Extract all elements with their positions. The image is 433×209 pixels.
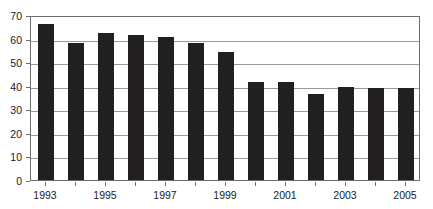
bar (98, 33, 114, 180)
x-tick-mark (105, 182, 106, 186)
x-axis: 1993199519971999200120032005 (30, 182, 420, 209)
y-tick-label: 60 (10, 34, 22, 45)
y-tick-label: 0 (16, 176, 22, 187)
y-tick-label: 10 (10, 152, 22, 163)
y-tick-label: 40 (10, 81, 22, 92)
y-tick-label: 50 (10, 58, 22, 69)
x-tick-label: 2003 (333, 190, 356, 201)
x-tick-mark (165, 182, 166, 186)
x-tick-mark (315, 182, 316, 186)
x-tick-mark (255, 182, 256, 186)
x-tick-label: 1997 (153, 190, 176, 201)
bar (308, 94, 324, 180)
x-tick-mark (405, 182, 406, 186)
bar (188, 43, 204, 180)
x-tick-mark (285, 182, 286, 186)
bar (68, 43, 84, 180)
x-tick-label: 2001 (273, 190, 296, 201)
bars-layer (31, 17, 419, 180)
x-tick-label: 2005 (393, 190, 416, 201)
bar (218, 52, 234, 180)
bar (338, 87, 354, 180)
bar-chart: 010203040506070 199319951997199920012003… (0, 0, 433, 209)
bar (158, 37, 174, 180)
x-tick-mark (195, 182, 196, 186)
bar (368, 88, 384, 180)
bar (38, 24, 54, 180)
y-tick-label: 30 (10, 105, 22, 116)
bar (278, 82, 294, 180)
x-tick-mark (375, 182, 376, 186)
x-tick-label: 1999 (213, 190, 236, 201)
plot-area (30, 16, 420, 181)
x-tick-mark (45, 182, 46, 186)
x-tick-mark (345, 182, 346, 186)
bar (128, 35, 144, 180)
bar (398, 88, 414, 180)
y-tick-label: 70 (10, 11, 22, 22)
x-tick-label: 1993 (33, 190, 56, 201)
x-tick-label: 1995 (93, 190, 116, 201)
bar (248, 82, 264, 180)
x-tick-mark (75, 182, 76, 186)
x-tick-mark (135, 182, 136, 186)
y-tick-label: 20 (10, 129, 22, 140)
y-axis: 010203040506070 (0, 0, 30, 209)
x-tick-mark (225, 182, 226, 186)
